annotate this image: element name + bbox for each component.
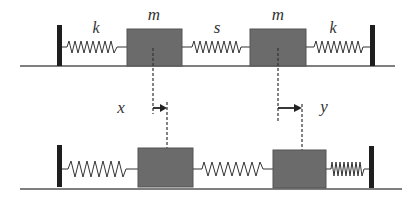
spring-middle-bottom	[193, 162, 273, 176]
spring-right-top	[306, 41, 370, 53]
spring-left-bottom	[62, 161, 138, 177]
left-wall-top	[57, 25, 62, 66]
spring-right-bottom	[326, 162, 369, 176]
label-mass-right: m	[272, 5, 284, 24]
mass-spring-diagram: k m s m k x y	[0, 0, 419, 202]
label-spring-left: k	[92, 19, 100, 36]
label-spring-middle: s	[214, 18, 221, 37]
right-wall-bottom	[369, 146, 374, 188]
arrow-y-head-icon	[294, 104, 302, 112]
label-spring-right: k	[329, 19, 337, 36]
mass-left-bottom	[138, 148, 193, 187]
label-displacement-y: y	[318, 97, 328, 116]
arrow-x-head-icon	[160, 104, 167, 112]
spring-middle-top	[182, 41, 250, 53]
mass-left-top	[127, 29, 182, 66]
mass-right-bottom	[273, 150, 326, 188]
left-wall-bottom	[57, 145, 62, 187]
equilibrium-configuration: k m s m k	[20, 5, 395, 66]
displaced-configuration	[20, 145, 402, 189]
label-mass-left: m	[148, 5, 160, 24]
spring-left-top	[62, 41, 127, 53]
right-wall-top	[370, 25, 375, 66]
label-displacement-x: x	[116, 98, 125, 117]
